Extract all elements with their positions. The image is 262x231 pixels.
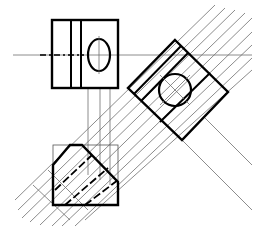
front-hidden-1 — [55, 155, 92, 190]
top-view — [40, 20, 118, 88]
front-view — [53, 145, 118, 205]
front-view-outline — [53, 145, 118, 205]
orthographic-drawing — [0, 0, 262, 231]
projection-lines — [13, 5, 252, 226]
top-view-outline — [52, 20, 118, 88]
